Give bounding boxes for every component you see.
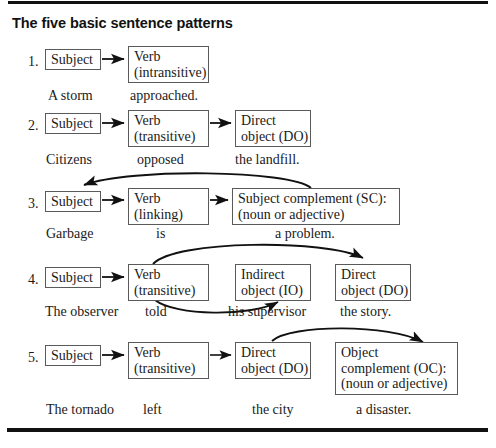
node-verb-transitive-5[interactable]: Verb (transitive) <box>128 342 209 379</box>
node-direct-object-2[interactable]: Direct object (DO) <box>235 110 311 147</box>
node-verb-transitive-2-line-1: Verb <box>134 113 204 129</box>
node-subject-1-line-1: Subject <box>51 52 96 68</box>
node-object-complement-5-line-3: (noun or adjective) <box>341 376 453 392</box>
example-word-2-2: opposed <box>137 153 184 167</box>
node-object-complement-5[interactable]: Object complement (OC): (noun or adjecti… <box>335 342 458 395</box>
node-indirect-object-4-line-1: Indirect <box>241 267 306 283</box>
pattern-number-1: 1. <box>28 55 39 69</box>
node-subject-5[interactable]: Subject <box>45 345 101 366</box>
example-word-2-3: the landfill. <box>235 153 300 167</box>
bottom-divider-rule <box>7 428 488 432</box>
example-word-5-1: The tornado <box>46 403 114 417</box>
node-verb-linking-3-line-1: Verb <box>134 191 204 207</box>
node-subject-complement-3[interactable]: Subject complement (SC): (noun or adject… <box>232 188 400 225</box>
node-subject-3[interactable]: Subject <box>45 191 101 212</box>
node-subject-2-line-1: Subject <box>51 116 96 132</box>
example-word-4-1: The observer <box>45 305 118 319</box>
node-direct-object-4[interactable]: Direct object (DO) <box>335 264 411 301</box>
node-subject-1[interactable]: Subject <box>45 49 101 70</box>
example-word-5-2: left <box>143 403 162 417</box>
node-direct-object-2-line-1: Direct <box>241 113 306 129</box>
node-verb-transitive-5-line-1: Verb <box>134 345 204 361</box>
example-word-4-2: told <box>145 305 167 319</box>
node-verb-intransitive-1-line-1: Verb <box>134 49 204 65</box>
node-indirect-object-4[interactable]: Indirect object (IO) <box>235 264 311 301</box>
pattern-row-2: 2. Subject Verb (transitive) Direct obje… <box>0 108 496 166</box>
node-subject-complement-3-line-1: Subject complement (SC): <box>238 191 395 207</box>
node-verb-transitive-2-line-2: (transitive) <box>134 129 204 145</box>
node-object-complement-5-line-1: Object <box>341 345 453 361</box>
example-word-1-2: approached. <box>130 89 198 103</box>
pattern-row-3: 3. Subject Verb (linking) Subject comple… <box>0 186 496 240</box>
node-verb-intransitive-1-line-2: (intransitive) <box>134 65 204 81</box>
node-subject-2[interactable]: Subject <box>45 113 101 134</box>
node-direct-object-5-line-1: Direct <box>241 345 306 361</box>
example-word-5-3: the city <box>252 403 294 417</box>
node-object-complement-5-line-2: complement (OC): <box>341 361 453 377</box>
pattern-number-3: 3. <box>28 197 39 211</box>
node-indirect-object-4-line-2: object (IO) <box>241 283 306 299</box>
node-verb-transitive-4-line-1: Verb <box>134 267 204 283</box>
pattern-row-5: 5. Subject Verb (transitive) Direct obje… <box>0 340 496 418</box>
node-verb-transitive-4[interactable]: Verb (transitive) <box>128 264 209 301</box>
pattern-number-2: 2. <box>28 119 39 133</box>
node-verb-intransitive-1[interactable]: Verb (intransitive) <box>128 46 209 83</box>
example-word-4-4: the story. <box>340 305 391 319</box>
pattern-number-4: 4. <box>28 273 39 287</box>
example-word-3-2: is <box>156 227 165 241</box>
node-direct-object-4-line-1: Direct <box>341 267 406 283</box>
example-word-4-3: his supervisor <box>228 305 306 319</box>
page-title: The five basic sentence patterns <box>12 15 233 31</box>
node-subject-4-line-1: Subject <box>51 270 96 286</box>
node-direct-object-5-line-2: object (DO) <box>241 361 306 377</box>
node-subject-4[interactable]: Subject <box>45 267 101 288</box>
example-word-5-4: a disaster. <box>356 403 411 417</box>
example-word-2-1: Citizens <box>46 153 92 167</box>
node-verb-linking-3-line-2: (linking) <box>134 207 204 223</box>
node-subject-complement-3-line-2: (noun or adjective) <box>238 207 395 223</box>
pattern-row-4: 4. Subject Verb (transitive) Indirect ob… <box>0 262 496 318</box>
node-verb-transitive-4-line-2: (transitive) <box>134 283 204 299</box>
node-direct-object-2-line-2: object (DO) <box>241 129 306 145</box>
example-word-1-1: A storm <box>48 89 93 103</box>
node-subject-5-line-1: Subject <box>51 348 96 364</box>
node-verb-linking-3[interactable]: Verb (linking) <box>128 188 209 225</box>
node-direct-object-5[interactable]: Direct object (DO) <box>235 342 311 379</box>
example-word-3-1: Garbage <box>46 227 93 241</box>
pattern-row-1: 1. Subject Verb (intransitive) A storm a… <box>0 44 496 102</box>
node-verb-transitive-2[interactable]: Verb (transitive) <box>128 110 209 147</box>
top-divider-rule <box>8 1 488 4</box>
example-word-3-3: a problem. <box>275 227 335 241</box>
node-direct-object-4-line-2: object (DO) <box>341 283 406 299</box>
node-verb-transitive-5-line-2: (transitive) <box>134 361 204 377</box>
node-subject-3-line-1: Subject <box>51 194 96 210</box>
pattern-number-5: 5. <box>28 351 39 365</box>
